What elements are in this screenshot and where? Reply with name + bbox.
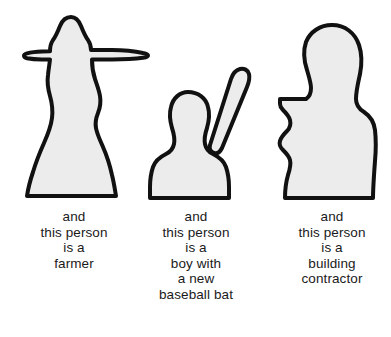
caption-boy-line-3: is a bbox=[126, 240, 266, 256]
caption-farmer-line-1: and bbox=[4, 209, 144, 225]
caption-boy-line-2: this person bbox=[126, 225, 266, 241]
caption-boy-line-1: and bbox=[126, 209, 266, 225]
caption-farmer-line-4: farmer bbox=[4, 256, 144, 272]
caption-contractor-line-5: contractor bbox=[262, 271, 391, 287]
caption-boy-line-5: a new bbox=[126, 271, 266, 287]
caption-contractor-line-4: building bbox=[262, 256, 391, 272]
caption-farmer-line-2: this person bbox=[4, 225, 144, 241]
caption-contractor: and this person is a building contractor bbox=[262, 209, 391, 287]
caption-farmer-line-3: is a bbox=[4, 240, 144, 256]
captions-layer: and this person is a farmer and this per… bbox=[0, 0, 391, 337]
caption-contractor-line-3: is a bbox=[262, 240, 391, 256]
caption-boy-line-4: boy with bbox=[126, 256, 266, 272]
caption-boy-line-6: baseball bat bbox=[126, 287, 266, 303]
caption-farmer: and this person is a farmer bbox=[4, 209, 144, 271]
caption-contractor-line-2: this person bbox=[262, 225, 391, 241]
caption-boy: and this person is a boy with a new base… bbox=[126, 209, 266, 303]
illustration-page: and this person is a farmer and this per… bbox=[0, 0, 391, 337]
caption-contractor-line-1: and bbox=[262, 209, 391, 225]
